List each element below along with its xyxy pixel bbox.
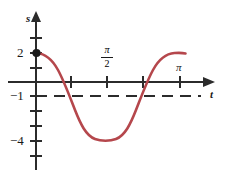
y-label-minus-1: −1: [10, 89, 24, 102]
pi-over-2-denominator: 2: [99, 59, 115, 70]
s-axis: [31, 11, 41, 170]
y-label-2: 2: [17, 46, 24, 59]
t-axis-label: t: [210, 89, 213, 100]
t-axis-arrowhead: [203, 77, 215, 87]
x-label-pi-over-2: π 2: [99, 45, 115, 69]
graph-canvas: [0, 0, 231, 175]
x-label-pi: π: [176, 62, 182, 73]
graph-figure: s t 2 −1 −4 π 2 π: [0, 0, 231, 175]
pi-over-2-numerator: π: [99, 45, 115, 56]
s-axis-label: s: [26, 13, 30, 24]
y-label-minus-4: −4: [10, 134, 24, 147]
t-axis: [8, 77, 215, 87]
start-point-marker: [32, 49, 40, 57]
s-axis-arrowhead: [31, 11, 41, 22]
